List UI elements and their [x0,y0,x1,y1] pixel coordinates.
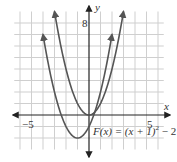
y-axis-label: y [95,2,100,13]
function-label: F(x) = (x + 1)2 − 2 [93,125,176,137]
y-tick-8: 8 [82,18,88,29]
graph-plot [0,0,177,162]
parabola-curves [43,12,124,139]
x-axis-label: x [164,101,169,112]
x-tick-neg5: −5 [22,119,34,130]
